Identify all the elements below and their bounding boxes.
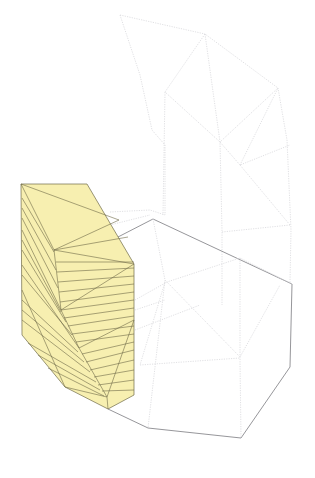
ghost-upper-shell bbox=[110, 15, 291, 305]
highlighted-yellow-block bbox=[21, 184, 134, 409]
lower-hexagonal-outline bbox=[108, 219, 292, 438]
mesh-diagram bbox=[0, 0, 315, 478]
